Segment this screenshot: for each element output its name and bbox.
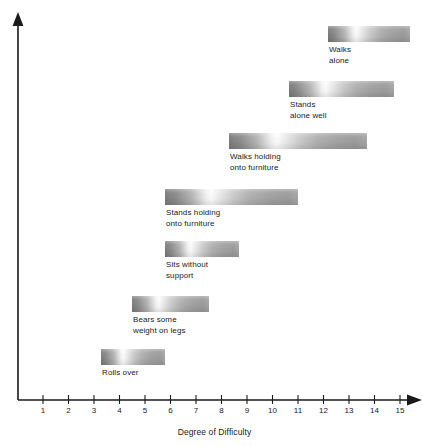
bar-label-stands-holding-onto-furniture: Stands holding onto furniture [166,208,220,229]
bar-label-walks-holding-onto-furniture: Walks holding onto furniture [230,152,281,173]
x-tick-label-5: 5 [137,406,153,415]
x-tick-label-13: 13 [341,406,357,415]
bar-walks-alone [328,26,410,42]
x-tick-label-7: 7 [188,406,204,415]
bar-rolls-over [101,349,165,365]
bar-label-stands-alone-well: Stands alone well [290,100,327,121]
x-tick-label-15: 15 [392,406,408,415]
bar-label-bears-some-weight-on-legs: Bears some weight on legs [133,315,186,336]
bar-label-sits-without-support: Sits without support [166,260,208,281]
chart-root: Walks alone Stands alone well Walks hold… [0,0,429,446]
x-tick-label-4: 4 [112,406,128,415]
x-tick-label-11: 11 [290,406,306,415]
x-tick-label-10: 10 [265,406,281,415]
x-tick-label-9: 9 [239,406,255,415]
bar-stands-alone-well [289,81,394,97]
x-tick-label-8: 8 [214,406,230,415]
x-tick-label-12: 12 [316,406,332,415]
x-tick-label-2: 2 [61,406,77,415]
x-axis-arrowhead [407,394,422,405]
bar-label-rolls-over: Rolls over [102,368,139,379]
x-axis-title: Degree of Difficulty [0,427,429,437]
bar-bears-some-weight-on-legs [132,296,209,312]
x-tick-label-14: 14 [367,406,383,415]
bar-walks-holding-onto-furniture [229,133,367,149]
bar-stands-holding-onto-furniture [165,189,298,205]
bar-label-walks-alone: Walks alone [329,45,351,66]
x-tick-label-6: 6 [163,406,179,415]
x-tick-label-1: 1 [35,406,51,415]
y-axis-arrowhead [13,12,24,26]
x-tick-label-3: 3 [86,406,102,415]
bar-sits-without-support [165,241,239,257]
x-axis-ticks [43,395,400,404]
